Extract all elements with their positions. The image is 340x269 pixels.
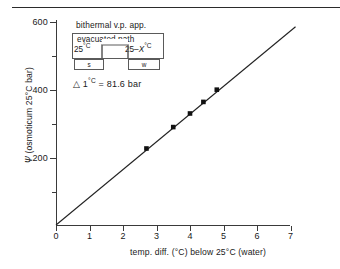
data-point <box>201 100 206 105</box>
data-layer <box>0 0 340 269</box>
data-point <box>188 111 193 116</box>
data-point <box>215 87 220 92</box>
data-point <box>171 125 176 130</box>
y-axis-title: Ψ (osmoticum 25°C bar) <box>24 30 34 200</box>
connector-mask <box>102 39 128 45</box>
psi-symbol: Ψ <box>24 156 34 163</box>
inset-connector-svg <box>72 20 164 72</box>
data-point <box>144 146 149 151</box>
x-axis-title: temp. diff. (°C) below 25°C (water) <box>78 247 318 257</box>
figure-root: 600 400 200 0 1 2 3 4 5 6 7 temp <box>0 0 340 269</box>
u-tube-connector <box>102 44 128 58</box>
slope-annotation: △ 1°C = 81.6 bar <box>73 79 141 89</box>
plot-area: 600 400 200 0 1 2 3 4 5 6 7 temp <box>0 0 340 269</box>
x-axis-title-text: temp. diff. (°C) below 25°C (water) <box>130 247 266 257</box>
slope-annotation-text: 1°C = 81.6 bar <box>83 79 142 89</box>
y-axis-title-text: (osmoticum 25°C bar) <box>24 67 34 154</box>
data-points-group <box>144 87 219 150</box>
apparatus-inset-diagram: bithermal v.p. app. evacuated path 25°C … <box>72 20 164 72</box>
u-tube-connector-top <box>102 45 128 58</box>
